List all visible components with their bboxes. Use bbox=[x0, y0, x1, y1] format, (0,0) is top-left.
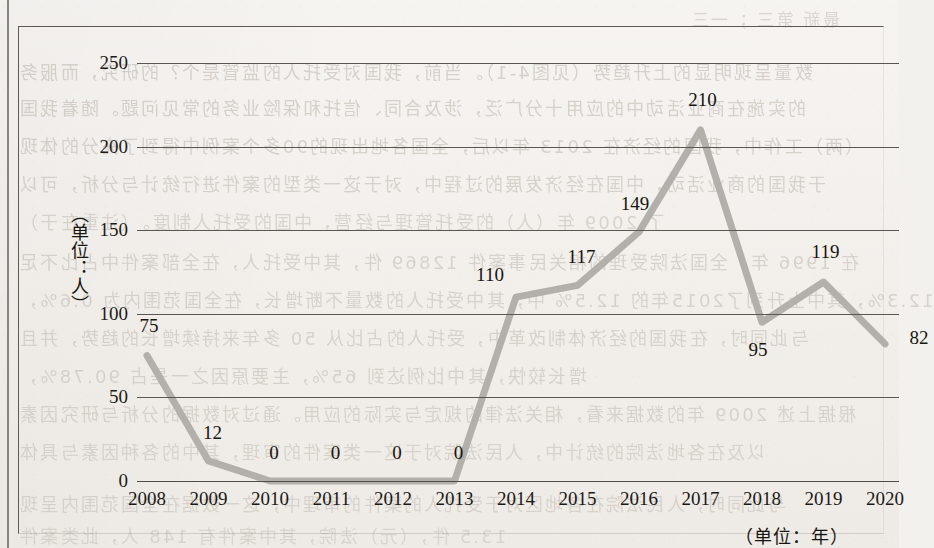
y-axis-tick-label: 0 bbox=[119, 470, 129, 492]
x-axis-tick-label: 2014 bbox=[497, 488, 535, 510]
data-value-label: 0 bbox=[454, 442, 464, 464]
x-axis-tick-label: 2016 bbox=[620, 488, 658, 510]
line-series bbox=[137, 63, 899, 481]
series-line bbox=[147, 130, 885, 481]
data-value-label: 75 bbox=[140, 315, 159, 337]
x-axis-tick-label: 2009 bbox=[190, 488, 228, 510]
x-axis-tick-label: 2012 bbox=[374, 488, 412, 510]
gridline bbox=[137, 230, 899, 231]
gridline bbox=[137, 481, 899, 482]
x-axis-tick-labels: 2008200920102011201220132014201520162017… bbox=[137, 488, 899, 514]
gridline bbox=[137, 397, 899, 398]
x-axis-title: （单位：年） bbox=[735, 522, 849, 548]
data-value-label: 117 bbox=[568, 246, 596, 268]
y-axis-tick-label: 100 bbox=[100, 302, 129, 324]
gridline bbox=[137, 63, 899, 64]
data-value-label: 149 bbox=[621, 193, 650, 215]
x-axis-tick-label: 2013 bbox=[436, 488, 474, 510]
data-value-label: 95 bbox=[749, 339, 768, 361]
x-axis-tick-label: 2010 bbox=[251, 488, 289, 510]
y-axis-title: （单位：人） bbox=[63, 205, 89, 313]
data-value-label: 82 bbox=[910, 327, 929, 349]
data-value-label: 12 bbox=[203, 422, 222, 444]
data-value-label: 119 bbox=[812, 241, 840, 263]
data-value-label: 210 bbox=[688, 89, 717, 111]
y-axis-tick-label: 200 bbox=[100, 135, 129, 157]
x-axis-tick-label: 2018 bbox=[743, 488, 781, 510]
x-axis-tick-label: 2008 bbox=[128, 488, 166, 510]
x-axis-tick-label: 2015 bbox=[559, 488, 597, 510]
gridline bbox=[137, 314, 899, 315]
data-value-label: 110 bbox=[476, 264, 504, 286]
page-gutter-edge bbox=[7, 0, 9, 548]
y-axis-tick-label: 50 bbox=[109, 386, 128, 408]
chart-frame: （单位：人） 050100150200250751200001101171492… bbox=[18, 26, 884, 534]
x-axis-tick-label: 2017 bbox=[682, 488, 720, 510]
y-axis-tick-label: 250 bbox=[100, 52, 129, 74]
chart-plot-area: 0501001502002507512000011011714921095119… bbox=[137, 63, 899, 481]
data-value-label: 0 bbox=[269, 442, 279, 464]
x-axis-tick-label: 2019 bbox=[805, 488, 843, 510]
x-axis-tick-label: 2011 bbox=[313, 488, 350, 510]
x-axis-tick-label: 2020 bbox=[866, 488, 904, 510]
gridline bbox=[137, 147, 899, 148]
data-value-label: 0 bbox=[392, 442, 402, 464]
y-axis-tick-label: 150 bbox=[100, 219, 129, 241]
data-value-label: 0 bbox=[331, 442, 341, 464]
